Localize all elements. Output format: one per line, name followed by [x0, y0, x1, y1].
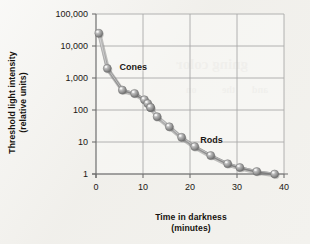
data-point-marker [103, 64, 112, 73]
series-label-rods: Rods [200, 135, 223, 145]
data-point-marker [178, 133, 187, 142]
chart-svg [96, 14, 284, 174]
series-label-cones: Cones [120, 62, 148, 72]
y-axis-title: Threshold light intensity (relative unit… [7, 18, 28, 188]
data-point-marker [253, 167, 262, 176]
x-tick-label: 0 [76, 182, 116, 192]
x-tick-label: 10 [123, 182, 163, 192]
data-point-marker [207, 151, 216, 160]
y-tick-label: 100 [26, 105, 88, 115]
data-point-marker [118, 86, 127, 95]
data-points [95, 29, 280, 179]
x-tick-label: 30 [217, 182, 257, 192]
data-point-marker [271, 170, 280, 179]
y-tick-label: 10 [26, 137, 88, 147]
x-axis-title: Time in darkness (minutes) [96, 212, 286, 233]
y-tick-label: 1,000 [26, 73, 88, 83]
x-axis-title-line2: (minutes) [96, 223, 286, 234]
data-lines [99, 33, 276, 176]
y-axis-title-line1: Threshold light intensity [7, 51, 17, 153]
y-axis-tick-labels: 1101001,00010,000100,000 [26, 0, 88, 244]
data-point-marker [131, 89, 140, 98]
data-point-marker [165, 123, 174, 132]
data-point-marker [153, 113, 162, 122]
data-point-marker [191, 143, 200, 152]
data-point-marker [224, 160, 233, 169]
y-tick-label: 100,000 [26, 9, 88, 19]
plot-area: Cones Rods [96, 14, 284, 174]
x-tick-label: 20 [170, 182, 210, 192]
x-tick-label: 40 [264, 182, 304, 192]
data-point-marker [147, 103, 156, 112]
chart-figure: Threshold light intensity (relative unit… [0, 0, 310, 244]
y-tick-label: 10,000 [26, 41, 88, 51]
y-tick-label: 1 [26, 169, 88, 179]
x-axis-title-line1: Time in darkness [155, 212, 227, 222]
